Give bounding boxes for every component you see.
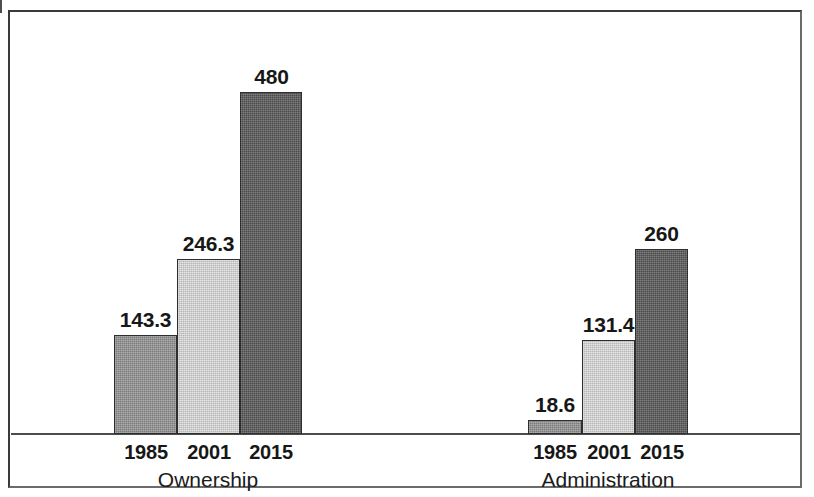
plot-area: 143.3 246.3 480 1985 2001 2015 Ownership…	[0, 0, 814, 497]
chart-figure: 143.3 246.3 480 1985 2001 2015 Ownership…	[0, 0, 814, 497]
bar-ownership-2015[interactable]	[240, 92, 302, 434]
bar-ownership-1985[interactable]	[114, 335, 177, 434]
bar-administration-1985[interactable]	[528, 420, 582, 434]
value-label-ownership-2001: 246.3	[168, 232, 249, 256]
bar-ownership-2001[interactable]	[177, 259, 240, 434]
value-label-ownership-1985: 143.3	[105, 308, 186, 332]
bar-administration-2015[interactable]	[635, 249, 688, 434]
group-label-administration: Administration	[518, 468, 698, 492]
value-label-administration-2015: 260	[621, 222, 702, 246]
value-label-ownership-2015: 480	[231, 65, 312, 89]
x-axis-center-tick	[0, 0, 2, 13]
x-tick-label-administration-2015: 2015	[622, 441, 702, 464]
x-tick-label-ownership-2015: 2015	[231, 441, 311, 464]
bar-administration-2001[interactable]	[582, 340, 635, 434]
group-label-ownership: Ownership	[128, 468, 288, 492]
